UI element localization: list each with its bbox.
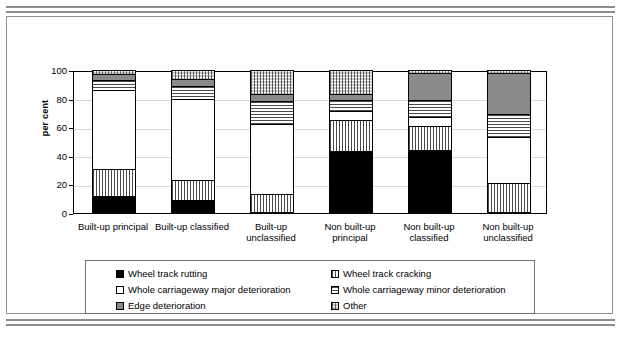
bar-segment [172, 201, 214, 213]
stacked-bar[interactable] [487, 70, 531, 213]
bar-segment [172, 80, 214, 87]
x-tick-label-line: Built-up [226, 221, 316, 232]
bar-segment [409, 101, 451, 118]
x-tick-label: Built-upunclassified [226, 221, 316, 243]
legend-label: Wheel track cracking [343, 268, 431, 279]
top-rule-upper [6, 6, 615, 8]
y-tick-label: 100 [37, 65, 67, 76]
bar-segment [330, 152, 372, 213]
stacked-bar[interactable] [171, 70, 215, 213]
bar-segment [488, 115, 530, 138]
bar-segment [409, 118, 451, 127]
legend-label: Whole carriageway major deterioration [128, 284, 291, 295]
gridline [74, 186, 546, 187]
bar-segment [172, 71, 214, 80]
bar-segment [172, 181, 214, 201]
gridline [74, 157, 546, 158]
legend: Wheel track ruttingWheel track crackingW… [85, 260, 535, 314]
stacked-bar[interactable] [92, 70, 136, 213]
legend-item[interactable]: Wheel track cracking [331, 268, 431, 279]
swatch-solid-white-icon [116, 286, 124, 294]
y-axis-title: per cent [40, 78, 50, 158]
bar-segment [251, 95, 293, 102]
legend-item[interactable]: Edge deterioration [116, 300, 206, 311]
legend-item[interactable]: Whole carriageway minor deterioration [331, 284, 506, 295]
x-tick-label-line: unclassified [463, 232, 553, 243]
bar-segment [93, 91, 135, 170]
x-tick-label-line: Built-up principal [68, 221, 158, 232]
bar-segment [93, 197, 135, 213]
legend-item[interactable]: Whole carriageway major deterioration [116, 284, 291, 295]
x-tick-label-line: Non built-up [463, 221, 553, 232]
swatch-solid-black-icon [116, 270, 124, 278]
legend-label: Other [343, 300, 367, 311]
bar-segment [330, 112, 372, 121]
bar-segment [251, 195, 293, 213]
bar-segment [172, 87, 214, 100]
bar-segment [93, 81, 135, 91]
y-tick-label: 20 [37, 179, 67, 190]
swatch-horizontal-lines-icon [331, 286, 339, 294]
x-tick-label: Non built-upprincipal [305, 221, 395, 243]
legend-label: Whole carriageway minor deterioration [343, 284, 506, 295]
swatch-solid-grey-icon [116, 302, 124, 310]
gridline [74, 129, 546, 130]
x-tick-label-line: Non built-up [384, 221, 474, 232]
bar-segment [251, 102, 293, 125]
legend-label: Wheel track rutting [128, 268, 207, 279]
bar-segment [172, 100, 214, 182]
x-tick-label-line: principal [305, 232, 395, 243]
bar-segment [409, 74, 451, 101]
bottom-rule-lower [6, 324, 615, 326]
bar-segment [488, 184, 530, 213]
swatch-fine-dots-icon [331, 302, 339, 310]
bar-segment [251, 71, 293, 95]
legend-item[interactable]: Other [331, 300, 367, 311]
bar-segment [330, 71, 372, 95]
x-tick-label: Built-up principal [68, 221, 158, 232]
bar-segment [488, 74, 530, 115]
legend-item[interactable]: Wheel track rutting [116, 268, 207, 279]
bottom-rule-upper [6, 319, 615, 321]
bar-segment [93, 170, 135, 197]
bar-segment [330, 101, 372, 112]
x-tick-label: Non built-upclassified [384, 221, 474, 243]
y-tick-mark [69, 214, 73, 215]
bar-segment [409, 127, 451, 151]
gridline [74, 100, 546, 101]
stacked-bar[interactable] [250, 70, 294, 213]
x-tick-label: Built-up classified [147, 221, 237, 232]
y-tick-label: 0 [37, 208, 67, 219]
y-tick-label: 40 [37, 151, 67, 162]
top-rule-lower [6, 11, 615, 13]
chart-frame: per cent 020406080100 Built-up principal… [6, 16, 613, 314]
y-tick-label: 80 [37, 94, 67, 105]
bar-segment [251, 125, 293, 195]
x-tick-label-line: Built-up classified [147, 221, 237, 232]
x-tick-label: Non built-upunclassified [463, 221, 553, 243]
chart-screenshot: per cent 020406080100 Built-up principal… [0, 0, 621, 337]
stacked-bar[interactable] [408, 70, 452, 213]
x-tick-label-line: Non built-up [305, 221, 395, 232]
plot-area [73, 71, 547, 214]
bar-segment [488, 138, 530, 184]
swatch-vertical-lines-icon [331, 270, 339, 278]
x-tick-label-line: unclassified [226, 232, 316, 243]
bar-segment [330, 121, 372, 152]
x-tick-label-line: classified [384, 232, 474, 243]
legend-label: Edge deterioration [128, 300, 206, 311]
stacked-bar[interactable] [329, 70, 373, 213]
bar-segment [409, 151, 451, 213]
y-tick-label: 60 [37, 122, 67, 133]
